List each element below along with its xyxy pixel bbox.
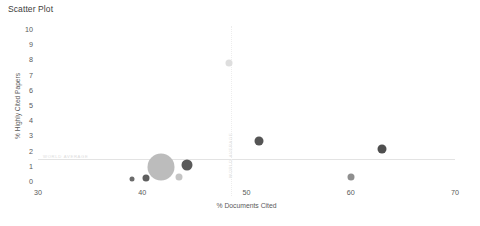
bottom-caption (18, 219, 470, 226)
y-tick-label: 2 (19, 148, 33, 155)
horizontal-reference-line-label: WORLD AVERAGE (43, 154, 89, 159)
x-axis-label: % Documents Cited (38, 202, 455, 209)
scatter-plot-figure: Scatter Plot % Highly Cited Papers 01234… (0, 0, 480, 226)
data-point[interactable] (129, 176, 134, 181)
y-tick-label: 10 (19, 26, 33, 33)
data-point[interactable] (175, 174, 182, 181)
x-tick-label: 70 (451, 189, 459, 196)
y-tick-label: 9 (19, 42, 33, 49)
y-tick-label: 0 (19, 178, 33, 185)
y-tick-label: 7 (19, 72, 33, 79)
y-tick-label: 8 (19, 57, 33, 64)
y-tick-label: 3 (19, 133, 33, 140)
data-point[interactable] (225, 60, 232, 67)
x-tick-label: 30 (34, 189, 42, 196)
x-tick-label: 40 (138, 189, 146, 196)
y-tick-label: 4 (19, 118, 33, 125)
data-point[interactable] (182, 160, 193, 171)
x-tick-label: 60 (347, 189, 355, 196)
horizontal-reference-line: WORLD AVERAGE (38, 159, 455, 160)
plot-area: % Highly Cited Papers 012345678910 30405… (38, 30, 455, 182)
data-point[interactable] (347, 174, 354, 181)
y-tick-label: 5 (19, 102, 33, 109)
data-point[interactable] (148, 153, 175, 180)
y-tick-label: 6 (19, 87, 33, 94)
y-tick-label: 1 (19, 163, 33, 170)
x-tick-label: 50 (243, 189, 251, 196)
data-point[interactable] (143, 175, 150, 182)
data-point[interactable] (255, 136, 264, 145)
page-title: Scatter Plot (8, 4, 53, 14)
vertical-reference-line-label: WORLD AVERAGE (228, 132, 233, 178)
data-point[interactable] (378, 144, 387, 153)
